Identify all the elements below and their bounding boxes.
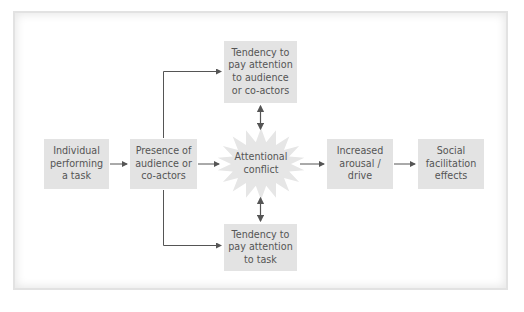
node-presence-of-audience: Presence of audience or co-actors — [130, 139, 197, 189]
node-attentional-conflict: Attentional conflict — [226, 151, 296, 176]
node-attend-to-task: Tendency to pay attention to task — [224, 224, 297, 271]
node-label: Increased arousal / drive — [337, 145, 384, 183]
node-label: Tendency to pay attention to task — [228, 229, 292, 267]
node-label: Individual performing a task — [50, 145, 103, 183]
arrow-presence-to-attend-task — [164, 190, 222, 246]
node-label: Presence of audience or co-actors — [135, 145, 192, 183]
arrow-presence-to-attend-audience — [164, 72, 222, 139]
node-attend-to-audience: Tendency to pay attention to audience or… — [224, 41, 297, 103]
node-social-facilitation: Social facilitation effects — [418, 139, 484, 189]
node-label: Social facilitation effects — [426, 145, 477, 183]
node-increased-arousal: Increased arousal / drive — [327, 139, 393, 189]
node-label: Tendency to pay attention to audience or… — [228, 47, 292, 97]
node-individual-performing-task: Individual performing a task — [44, 139, 109, 189]
